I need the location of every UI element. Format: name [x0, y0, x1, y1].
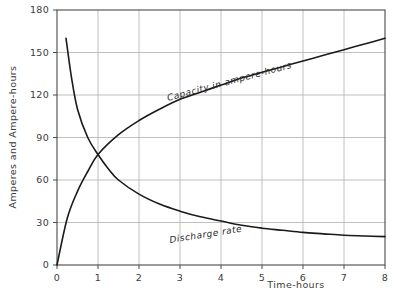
- chart-page: 012345678 0306090120150180 Time-hours Am…: [0, 0, 396, 300]
- x-axis-tick-marks: [57, 265, 385, 269]
- y-axis-tick-labels: 0306090120150180: [30, 4, 49, 270]
- y-tick-label: 30: [36, 217, 49, 228]
- x-tick-label: 2: [136, 272, 142, 283]
- x-tick-label: 5: [259, 272, 265, 283]
- battery-capacity-discharge-chart: 012345678 0306090120150180 Time-hours Am…: [0, 0, 396, 300]
- x-tick-label: 1: [95, 272, 101, 283]
- x-tick-label: 7: [341, 272, 347, 283]
- y-tick-label: 120: [30, 89, 49, 100]
- x-tick-label: 4: [218, 272, 224, 283]
- y-tick-label: 90: [36, 132, 49, 143]
- x-tick-label: 8: [382, 272, 388, 283]
- y-tick-label: 60: [36, 174, 49, 185]
- y-axis-title: Amperes and Ampere-hours: [7, 66, 18, 209]
- x-axis-title: Time-hours: [266, 279, 324, 290]
- y-tick-label: 180: [30, 4, 49, 15]
- x-axis-tick-labels: 012345678: [54, 272, 388, 283]
- y-axis-tick-marks: [53, 10, 57, 265]
- x-tick-label: 0: [54, 272, 60, 283]
- y-tick-label: 150: [30, 47, 49, 58]
- x-tick-label: 3: [177, 272, 183, 283]
- y-tick-label: 0: [43, 259, 49, 270]
